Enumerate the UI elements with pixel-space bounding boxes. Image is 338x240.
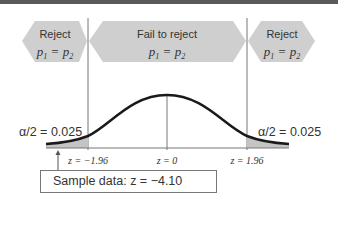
right-tail-label: α/2 = 0.025 [258, 125, 321, 139]
reject-right-title: Reject [266, 28, 297, 40]
arrowhead-icon [56, 150, 61, 155]
tick-center: z = 0 [156, 155, 178, 166]
sample-data-box: Sample data: z = −4.10 [40, 170, 217, 193]
tick-left: z = −1.96 [67, 155, 108, 166]
reject-left-formula: p1 = p2 [36, 44, 73, 61]
fail-to-reject-title: Fail to reject [137, 28, 197, 40]
left-tail-label: α/2 = 0.025 [19, 125, 82, 139]
reject-left-title: Reject [39, 28, 70, 40]
fail-to-reject-formula: p1 = p2 [148, 44, 185, 61]
tick-right: z = 1.96 [229, 155, 263, 166]
reject-right-formula: p1 = p2 [263, 44, 300, 61]
